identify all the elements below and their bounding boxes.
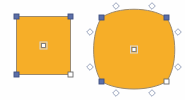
handle-bottom-left[interactable] — [14, 72, 19, 77]
shape-square-handle-center[interactable] — [42, 44, 46, 48]
handle-top-right[interactable] — [164, 15, 169, 20]
handle-top-left[interactable] — [14, 14, 19, 19]
vector-shape-canvas[interactable] — [0, 0, 185, 100]
handle-bottom-left[interactable] — [99, 79, 104, 84]
handle-bottom-right[interactable] — [164, 79, 169, 84]
handle-bottom-right[interactable] — [68, 72, 73, 77]
handle-top-left[interactable] — [99, 15, 104, 20]
vector-canvas-surface[interactable] — [0, 0, 185, 100]
handle-top-right[interactable] — [68, 14, 73, 19]
shape-rounded-square-handle-center[interactable] — [132, 48, 136, 52]
